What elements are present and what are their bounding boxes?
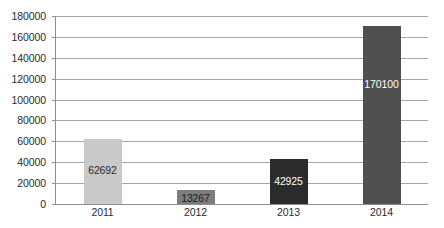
y-tick-mark xyxy=(52,204,56,205)
y-tick-label: 60000 xyxy=(17,135,46,147)
bar[interactable]: 62692 xyxy=(84,139,122,204)
bar-value-label: 62692 xyxy=(84,164,122,176)
bar-value-label: 42925 xyxy=(270,175,308,187)
y-tick-label: 40000 xyxy=(17,156,46,168)
plot-area: 626921326742925170100 xyxy=(56,16,428,204)
bar-value-label: 170100 xyxy=(363,78,401,90)
y-axis: 1800001600001400001200001000008000060000… xyxy=(0,0,52,228)
y-tick-label: 0 xyxy=(40,198,46,210)
x-tick-label: 2013 xyxy=(277,206,300,218)
bar-chart: 1800001600001400001200001000008000060000… xyxy=(0,0,444,228)
y-tick-label: 80000 xyxy=(17,114,46,126)
bars: 626921326742925170100 xyxy=(56,16,428,204)
x-axis: 2011201220132014 xyxy=(56,206,428,226)
bar[interactable]: 170100 xyxy=(363,26,401,204)
y-tick-label: 140000 xyxy=(12,52,46,64)
x-tick-label: 2014 xyxy=(370,206,393,218)
bar[interactable]: 42925 xyxy=(270,159,308,204)
y-tick-label: 100000 xyxy=(12,94,46,106)
y-tick-label: 160000 xyxy=(12,31,46,43)
bar[interactable]: 13267 xyxy=(177,190,215,204)
x-tick-label: 2011 xyxy=(91,206,113,218)
x-axis-baseline xyxy=(56,204,428,205)
y-tick-label: 120000 xyxy=(12,73,46,85)
bar-value-label: 13267 xyxy=(177,192,215,204)
x-tick-label: 2012 xyxy=(184,206,207,218)
y-tick-label: 20000 xyxy=(17,177,46,189)
y-tick-label: 180000 xyxy=(12,10,46,22)
